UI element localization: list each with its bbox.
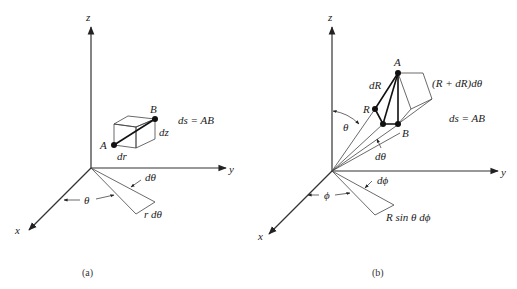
panel-a-caption: (a) [82,267,93,279]
y-axis-label: y [228,163,234,175]
point-b [395,121,401,127]
r-sin-theta-dphi-label: R sin θ dϕ [385,211,431,223]
x-axis-label: x [14,224,20,236]
segment-ab [114,119,155,145]
theta-arrow-right [96,195,114,199]
point-r [372,106,378,112]
panel-b-caption: (b) [372,267,384,279]
x-axis [29,168,91,230]
arc-length-label: (R + dR)dθ [432,77,483,90]
dtheta-label: dθ [145,171,157,183]
point-r-label: R [362,103,370,115]
y-axis-label: y [500,166,506,178]
dtheta-arrow [131,180,141,187]
x-axis-label: x [257,230,263,242]
panel-b-spherical: z y x A B R dR (R + dR)dθ ds = AB θ dθ [257,11,506,279]
point-a-label: A [99,139,107,151]
dr-label: dr [117,150,128,162]
point-corner [380,121,386,127]
volume-element-box [114,116,155,148]
dz-label: dz [159,126,170,138]
theta-label: θ [343,121,349,133]
point-b [152,116,158,122]
panel-a-cylindrical: z y x A B ds = AB dz dr dθ r dθ θ (a) [14,11,234,279]
r-dtheta-label: r dθ [144,208,163,220]
z-axis-label: z [327,11,333,23]
point-b-label: B [402,127,409,139]
phi-arrow-right [335,193,350,195]
point-a [395,70,401,76]
point-b-label: B [150,103,157,115]
point-a-label: A [393,56,401,68]
volume-element-box [375,73,432,124]
point-a [111,142,117,148]
dtheta-label: dθ [375,150,387,162]
z-axis-label: z [85,11,91,23]
phi-label: ϕ [324,189,330,201]
ds-equation: ds = AB [178,114,214,126]
radius-ray-r [332,109,375,171]
theta-label: θ [84,194,90,206]
dphi-label: dϕ [377,174,389,186]
figure-canvas: z y x A B ds = AB dz dr dθ r dθ θ (a) [0,0,517,289]
x-axis [269,171,332,234]
dR-label: dR [369,79,382,91]
ds-equation: ds = AB [449,112,485,124]
dphi-arrow [365,181,372,188]
